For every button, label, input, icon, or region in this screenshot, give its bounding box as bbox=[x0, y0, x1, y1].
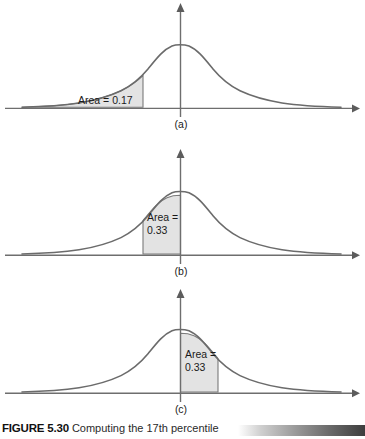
figure-container: Area = 0.17 (a) Area = 0.33 (b) bbox=[0, 0, 365, 439]
area-annotation-b: Area = 0.33 bbox=[147, 211, 178, 236]
normal-curve-a bbox=[22, 45, 341, 107]
y-axis-arrow-b bbox=[177, 149, 185, 158]
distribution-panel-b: Area = 0.33 (b) bbox=[0, 144, 365, 290]
area-annotation-c: Area = 0.33 bbox=[185, 348, 216, 373]
x-axis-arrow-c bbox=[352, 389, 360, 397]
panel-tag-a: (a) bbox=[161, 118, 201, 130]
panel-tag-c: (c) bbox=[161, 403, 201, 415]
normal-curve-chart-c bbox=[0, 286, 365, 418]
area-annotation-a: Area = 0.17 bbox=[78, 94, 133, 107]
x-axis-arrow-b bbox=[352, 251, 360, 259]
panel-tag-b: (b) bbox=[161, 265, 201, 277]
y-axis-arrow-c bbox=[177, 289, 185, 298]
caption-gradient-bar bbox=[238, 425, 365, 436]
y-axis-arrow-a bbox=[177, 3, 185, 12]
figure-title: Computing the 17th percentile bbox=[69, 422, 219, 434]
x-axis-arrow-a bbox=[352, 104, 360, 112]
distribution-panel-c: Area = 0.33 (c) bbox=[0, 286, 365, 418]
caption-text: FIGURE 5.30 Computing the 17th percentil… bbox=[2, 422, 219, 434]
distribution-panel-a: Area = 0.17 (a) bbox=[0, 0, 365, 140]
figure-number: FIGURE 5.30 bbox=[2, 422, 69, 434]
normal-curve-b bbox=[22, 192, 341, 254]
